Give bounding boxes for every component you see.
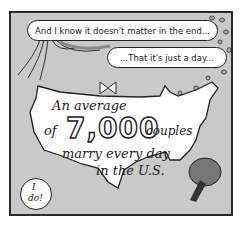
caption-couples: couples xyxy=(146,124,192,138)
speech-bubble-2: ...That it's just a day... xyxy=(107,47,227,68)
caption-line-1: An average xyxy=(52,98,127,113)
bouquet-icon xyxy=(189,158,221,202)
i-do-line-1: I xyxy=(32,182,36,192)
i-do-bubble: I do! xyxy=(20,178,52,210)
caption-line-3: marry every day xyxy=(62,146,170,161)
speech-bubble-1: And I know it doesn't matter in the end.… xyxy=(27,20,218,41)
bow-icon xyxy=(100,82,116,94)
i-do-line-2: do! xyxy=(28,193,43,203)
curtain-drape-icon xyxy=(18,40,100,80)
caption-of: of xyxy=(44,123,57,138)
caption-line-4: in the U.S. xyxy=(96,163,165,178)
